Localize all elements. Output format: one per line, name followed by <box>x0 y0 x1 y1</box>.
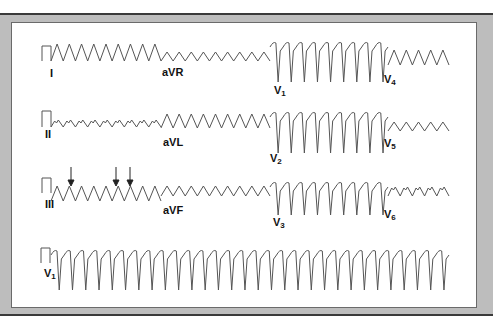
lead-label-I: I <box>50 68 53 79</box>
trace-lead-I <box>42 44 161 61</box>
trace-rhythm-V1 <box>41 248 449 290</box>
lead-label-V4: V4 <box>384 74 396 87</box>
lead-label-V3: V3 <box>273 217 285 230</box>
trace-lead-aVF <box>161 186 270 196</box>
trace-lead-aVL <box>161 114 270 128</box>
lead-label-V5: V5 <box>384 138 396 151</box>
trace-lead-III <box>42 178 161 201</box>
trace-lead-V4 <box>388 50 449 65</box>
trace-lead-V5 <box>388 122 449 131</box>
lead-label-aVF: aVF <box>163 205 183 216</box>
lead-label-V6: V6 <box>384 209 396 222</box>
ecg-tracings <box>0 0 501 323</box>
trace-lead-V2 <box>270 113 388 154</box>
trace-lead-aVR <box>161 52 270 61</box>
lead-label-V2: V2 <box>270 153 282 166</box>
down-arrow-icon <box>113 180 119 186</box>
lead-label-III: III <box>45 199 54 210</box>
lead-label-rhythm-V1: V1 <box>44 268 56 281</box>
down-arrow-icon <box>68 180 74 186</box>
lead-label-II: II <box>45 129 51 140</box>
trace-lead-V3 <box>270 183 388 216</box>
lead-label-aVL: aVL <box>163 137 183 148</box>
trace-lead-V1 <box>270 43 388 83</box>
trace-lead-V6 <box>388 187 449 196</box>
lead-label-V1: V1 <box>274 85 286 98</box>
trace-lead-II <box>42 111 161 127</box>
lead-label-aVR: aVR <box>162 67 183 78</box>
down-arrow-icon <box>127 180 133 186</box>
